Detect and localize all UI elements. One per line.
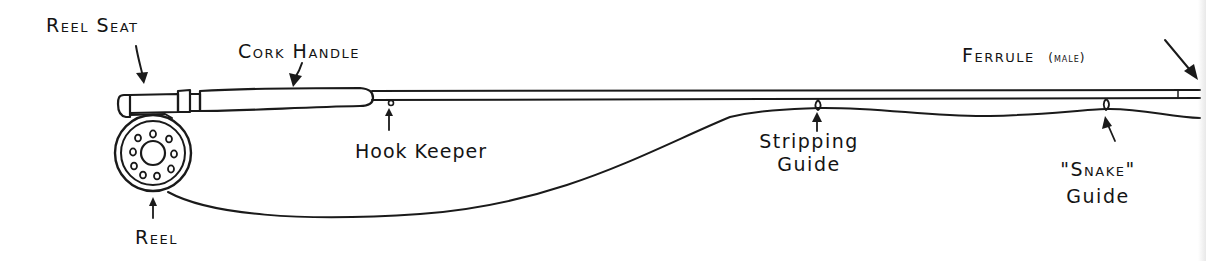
stripping-guide-label-line2: Guide	[748, 155, 870, 174]
snake-guide-arrow	[1102, 116, 1115, 141]
reel-seat-shape	[118, 90, 200, 117]
cork-handle-label: Cork Handle	[238, 42, 360, 61]
ferrule-label: Ferrule (male)	[962, 46, 1085, 65]
reel-seat-label: Reel Seat	[46, 16, 139, 35]
snake-guide-label-line2: Guide	[1038, 187, 1158, 206]
reel-label: Reel	[135, 228, 178, 247]
ferrule-label-text: Ferrule	[962, 44, 1035, 66]
reel-shape	[115, 114, 191, 191]
page-edge-shadow	[1198, 0, 1206, 261]
fly-rod-drawing	[0, 0, 1206, 261]
hook-keeper-arrow	[385, 108, 393, 130]
ferrule-arrow	[1165, 40, 1198, 80]
stripping-guide-label: Stripping Guide	[748, 132, 870, 174]
fly-rod-diagram: Reel Seat Cork Handle Hook Keeper Reel S…	[0, 0, 1206, 261]
ferrule-qualifier: (male)	[1048, 51, 1085, 65]
hook-keeper-shape	[389, 101, 394, 106]
reel-seat-arrow	[136, 46, 148, 84]
stripping-guide-arrow	[812, 112, 822, 131]
cork-handle-arrow	[289, 63, 302, 87]
reel-port-holes	[130, 130, 177, 179]
snake-guide-label-line1: "Snake"	[1038, 160, 1158, 179]
cork-handle-shape	[200, 88, 373, 111]
stripping-guide-label-line1: Stripping	[748, 132, 870, 151]
hook-keeper-label: Hook Keeper	[355, 142, 487, 161]
reel-arrow	[149, 197, 157, 218]
rod-blank	[372, 90, 1200, 100]
snake-guide-label: "Snake" Guide	[1038, 160, 1158, 206]
